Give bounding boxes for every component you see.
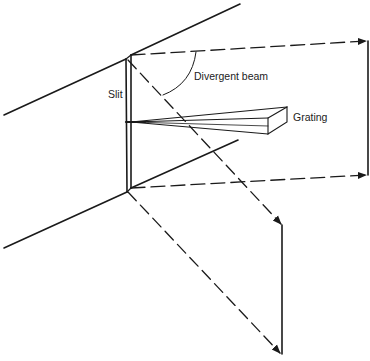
spectrometer-diagram: Slit Divergent beam Grating bbox=[0, 0, 370, 361]
beam-upper-down bbox=[128, 60, 281, 224]
divergent-beam-arc bbox=[163, 52, 196, 95]
beam-lower-down bbox=[128, 192, 280, 353]
upper-left-edge bbox=[4, 59, 126, 115]
beam-upper-right bbox=[131, 41, 366, 55]
lower-right-edge bbox=[131, 140, 238, 188]
divergent-beam-label: Divergent beam bbox=[194, 70, 268, 82]
beam-lower-right bbox=[131, 175, 366, 188]
slit-back-edge bbox=[126, 59, 127, 192]
grating-label: Grating bbox=[293, 111, 328, 123]
upper-right-edge bbox=[131, 4, 240, 55]
grating-end-face bbox=[268, 107, 287, 134]
slit-label: Slit bbox=[108, 88, 123, 100]
lower-left-edge bbox=[4, 192, 127, 248]
